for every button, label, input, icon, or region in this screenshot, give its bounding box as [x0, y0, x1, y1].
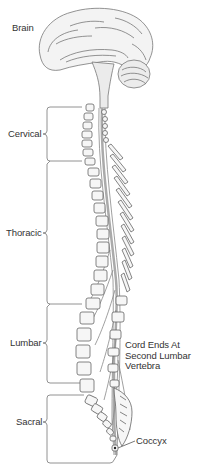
cord-end-line-1: Cord Ends At [125, 340, 191, 351]
brain-label: Brain [12, 23, 34, 34]
region-brackets [43, 107, 117, 463]
sacral-label: Sacral [16, 417, 42, 428]
cervical-label: Cervical [8, 129, 42, 140]
coccyx-label: Coccyx [136, 436, 167, 447]
brain-illustration [39, 8, 153, 108]
cord-end-line-3: Vertebra [125, 361, 191, 372]
lumbar-label: Lumbar [10, 338, 42, 349]
cord-end-label: Cord Ends At Second Lumbar Vertebra [125, 340, 191, 372]
thoracic-label: Thoracic [6, 228, 42, 239]
